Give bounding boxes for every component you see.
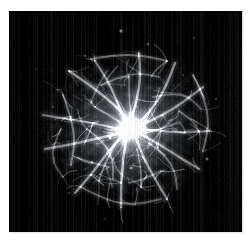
nebula-image — [9, 11, 242, 232]
frame-edge-right — [242, 11, 244, 232]
frame-edge-bottom — [9, 232, 244, 234]
page-background — [0, 0, 252, 240]
astronomy-image-frame — [9, 11, 242, 232]
